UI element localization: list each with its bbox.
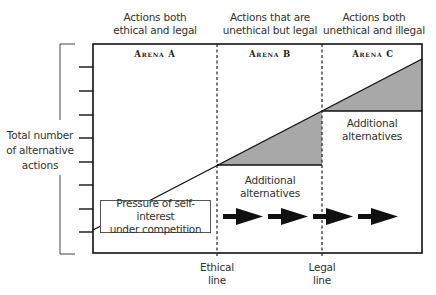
column-header-c: Actions both unethical and illegal: [322, 11, 426, 36]
ethical-line-label: Ethical line: [187, 261, 247, 286]
header-c-line1: Actions both: [322, 11, 426, 24]
pressure-of-self-interest-box: Pressure of self-interest under competit…: [100, 200, 211, 233]
arrow-icon: [358, 208, 398, 225]
header-b-line1: Actions that are: [216, 11, 324, 24]
region-c-line2: alternatives: [324, 130, 420, 143]
ethical-label-line1: Ethical: [187, 261, 247, 274]
arena-c-label: Arena C: [328, 49, 418, 59]
arrow-icon: [223, 208, 263, 225]
region-b-line2: alternatives: [222, 187, 318, 200]
legal-label-line2: line: [292, 274, 352, 287]
y-axis-label-line2: of alternative: [2, 143, 78, 158]
y-axis-label: Total number of alternative actions: [2, 128, 78, 173]
region-b-line1: Additional: [222, 174, 318, 187]
header-c-line2: unethical and illegal: [322, 24, 426, 37]
arrow-icon: [313, 208, 353, 225]
pressure-line1: Pressure of self-interest: [101, 197, 210, 223]
column-header-b: Actions that are unethical but legal: [216, 11, 324, 36]
additional-alternatives-c: Additional alternatives: [324, 117, 420, 142]
pressure-line2: under competition: [101, 223, 210, 236]
header-a-line1: Actions both: [100, 11, 210, 24]
arrow-icon: [268, 208, 308, 225]
arena-b-label: Arena B: [225, 49, 315, 59]
y-axis-ticks: [79, 67, 93, 232]
competition-arrows: [223, 208, 398, 225]
column-header-a: Actions both ethical and legal: [100, 11, 210, 36]
ethical-label-line2: line: [187, 274, 247, 287]
header-b-line2: unethical but legal: [216, 24, 324, 37]
legal-line-label: Legal line: [292, 261, 352, 286]
arena-a-label: Arena A: [110, 49, 200, 59]
header-a-line2: ethical and legal: [100, 24, 210, 37]
region-c-line1: Additional: [324, 117, 420, 130]
y-axis-label-line3: actions: [2, 158, 78, 173]
y-axis-label-line1: Total number: [2, 128, 78, 143]
legal-label-line1: Legal: [292, 261, 352, 274]
additional-alternatives-b: Additional alternatives: [222, 174, 318, 199]
